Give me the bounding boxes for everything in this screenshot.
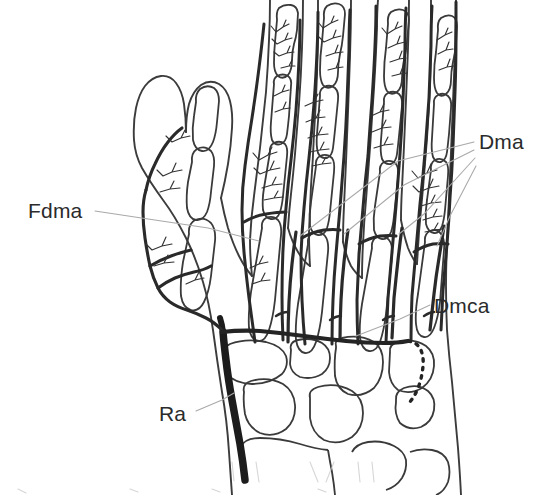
- leader-line-fdma: [95, 211, 259, 241]
- carpal-bones: [224, 337, 449, 495]
- anatomy-figure: Fdma Dma Dmca Ra: [0, 0, 544, 495]
- label-dmca: Dmca: [434, 295, 490, 316]
- label-fdma: Fdma: [28, 200, 82, 221]
- dorsal-carpal-arch-dashed-segment: [408, 341, 423, 404]
- scan-artifacts: [18, 462, 374, 493]
- hand-anatomy-drawing: [0, 0, 544, 495]
- label-ra: Ra: [159, 403, 186, 424]
- leader-line-dma-3: [399, 158, 475, 234]
- label-dma: Dma: [479, 131, 524, 152]
